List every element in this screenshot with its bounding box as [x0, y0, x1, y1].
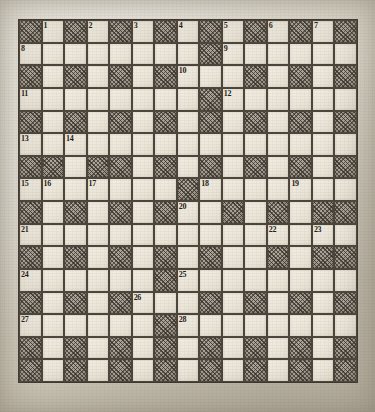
grid-open-cell[interactable]: [42, 314, 65, 337]
grid-open-cell[interactable]: [87, 292, 110, 315]
grid-open-cell[interactable]: [42, 359, 65, 382]
grid-open-cell[interactable]: [109, 178, 132, 201]
grid-open-cell[interactable]: [42, 224, 65, 247]
grid-open-cell[interactable]: [222, 314, 245, 337]
grid-open-cell[interactable]: [244, 88, 267, 111]
grid-open-cell[interactable]: [64, 224, 87, 247]
grid-open-cell[interactable]: [312, 359, 335, 382]
grid-open-cell[interactable]: [109, 43, 132, 66]
grid-open-cell[interactable]: [132, 269, 155, 292]
grid-open-cell[interactable]: [222, 65, 245, 88]
grid-open-cell[interactable]: [267, 111, 290, 134]
grid-open-cell[interactable]: [132, 111, 155, 134]
grid-open-cell[interactable]: [177, 224, 200, 247]
grid-open-cell-numbered-25[interactable]: 25: [177, 269, 200, 292]
grid-open-cell[interactable]: [87, 43, 110, 66]
grid-open-cell-numbered-17[interactable]: 17: [87, 178, 110, 201]
grid-open-cell[interactable]: [244, 314, 267, 337]
grid-open-cell[interactable]: [132, 224, 155, 247]
grid-open-cell[interactable]: [109, 269, 132, 292]
grid-open-cell[interactable]: [289, 88, 312, 111]
grid-open-cell[interactable]: [289, 246, 312, 269]
grid-open-cell[interactable]: [199, 314, 222, 337]
grid-open-cell[interactable]: [42, 111, 65, 134]
grid-open-cell[interactable]: [87, 111, 110, 134]
grid-open-cell[interactable]: [87, 314, 110, 337]
grid-open-cell[interactable]: [244, 133, 267, 156]
grid-open-cell[interactable]: [154, 43, 177, 66]
grid-open-cell-numbered-6[interactable]: 6: [267, 20, 290, 43]
grid-open-cell-numbered-11[interactable]: 11: [19, 88, 42, 111]
grid-open-cell[interactable]: [109, 314, 132, 337]
grid-open-cell[interactable]: [177, 133, 200, 156]
grid-open-cell[interactable]: [177, 337, 200, 360]
grid-open-cell[interactable]: [199, 65, 222, 88]
grid-open-cell-numbered-28[interactable]: 28: [177, 314, 200, 337]
grid-open-cell[interactable]: [312, 111, 335, 134]
grid-open-cell[interactable]: [334, 133, 357, 156]
grid-open-cell[interactable]: [244, 43, 267, 66]
grid-open-cell[interactable]: [109, 88, 132, 111]
grid-open-cell[interactable]: [267, 156, 290, 179]
grid-open-cell[interactable]: [334, 269, 357, 292]
grid-open-cell[interactable]: [312, 65, 335, 88]
grid-open-cell[interactable]: [289, 224, 312, 247]
grid-open-cell[interactable]: [244, 224, 267, 247]
grid-open-cell[interactable]: [87, 359, 110, 382]
grid-open-cell-numbered-14[interactable]: 14: [64, 133, 87, 156]
grid-open-cell-numbered-20[interactable]: 20: [177, 201, 200, 224]
grid-open-cell-numbered-4[interactable]: 4: [177, 20, 200, 43]
grid-open-cell-numbered-23[interactable]: 23: [312, 224, 335, 247]
grid-open-cell[interactable]: [222, 246, 245, 269]
grid-open-cell-numbered-18[interactable]: 18: [199, 178, 222, 201]
grid-open-cell[interactable]: [132, 359, 155, 382]
grid-open-cell[interactable]: [42, 269, 65, 292]
grid-open-cell[interactable]: [64, 88, 87, 111]
grid-open-cell[interactable]: [312, 133, 335, 156]
grid-open-cell[interactable]: [42, 43, 65, 66]
grid-open-cell[interactable]: [177, 246, 200, 269]
grid-open-cell[interactable]: [267, 133, 290, 156]
grid-open-cell[interactable]: [132, 314, 155, 337]
grid-open-cell[interactable]: [87, 201, 110, 224]
grid-open-cell[interactable]: [154, 292, 177, 315]
grid-open-cell[interactable]: [177, 292, 200, 315]
grid-open-cell[interactable]: [334, 178, 357, 201]
grid-open-cell[interactable]: [267, 337, 290, 360]
grid-open-cell[interactable]: [42, 246, 65, 269]
grid-open-cell[interactable]: [312, 178, 335, 201]
grid-open-cell-numbered-19[interactable]: 19: [289, 178, 312, 201]
grid-open-cell[interactable]: [64, 156, 87, 179]
grid-open-cell[interactable]: [289, 201, 312, 224]
grid-open-cell[interactable]: [267, 65, 290, 88]
grid-open-cell-numbered-27[interactable]: 27: [19, 314, 42, 337]
grid-open-cell[interactable]: [87, 65, 110, 88]
grid-open-cell[interactable]: [177, 111, 200, 134]
grid-open-cell[interactable]: [222, 269, 245, 292]
grid-open-cell[interactable]: [87, 88, 110, 111]
grid-open-cell[interactable]: [199, 224, 222, 247]
grid-open-cell[interactable]: [222, 111, 245, 134]
grid-open-cell[interactable]: [154, 224, 177, 247]
grid-open-cell-numbered-3[interactable]: 3: [132, 20, 155, 43]
grid-open-cell[interactable]: [222, 178, 245, 201]
grid-open-cell-numbered-26[interactable]: 26: [132, 292, 155, 315]
grid-open-cell[interactable]: [312, 314, 335, 337]
grid-open-cell[interactable]: [244, 201, 267, 224]
grid-open-cell[interactable]: [289, 43, 312, 66]
grid-open-cell[interactable]: [132, 156, 155, 179]
grid-open-cell[interactable]: [289, 314, 312, 337]
grid-open-cell-numbered-2[interactable]: 2: [87, 20, 110, 43]
grid-open-cell[interactable]: [289, 269, 312, 292]
grid-open-cell-numbered-5[interactable]: 5: [222, 20, 245, 43]
grid-open-cell[interactable]: [87, 224, 110, 247]
grid-open-cell[interactable]: [199, 201, 222, 224]
grid-open-cell[interactable]: [42, 65, 65, 88]
grid-open-cell[interactable]: [64, 178, 87, 201]
grid-open-cell[interactable]: [132, 65, 155, 88]
grid-open-cell-numbered-10[interactable]: 10: [177, 65, 200, 88]
grid-open-cell[interactable]: [87, 246, 110, 269]
grid-open-cell[interactable]: [312, 337, 335, 360]
grid-open-cell[interactable]: [154, 133, 177, 156]
grid-open-cell[interactable]: [312, 156, 335, 179]
